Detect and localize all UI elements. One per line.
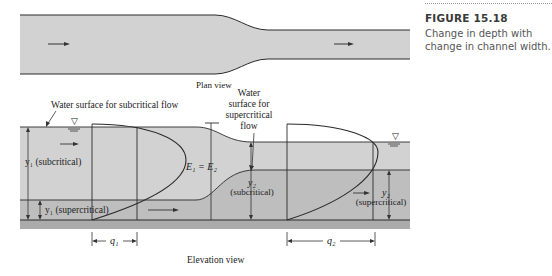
supercritical-surface-label-1: Water bbox=[238, 88, 261, 98]
subcritical-surface-label: Water surface for subcritical flow bbox=[51, 100, 179, 110]
water-surface-icon: ▽ bbox=[68, 116, 80, 131]
y1-supercritical-label: y₁ (supercritical) bbox=[45, 205, 109, 216]
y2-subcritical-label: (subcritical) bbox=[230, 187, 273, 197]
water-surface-icon: ▽ bbox=[388, 131, 400, 146]
energy-label: E₁ = E₂ bbox=[185, 161, 217, 172]
q2-label: q₂ bbox=[327, 235, 336, 246]
figure-number: FIGURE 15.18 bbox=[425, 12, 508, 24]
supercritical-surface-label-3: supercritical bbox=[226, 110, 273, 120]
y2-supercritical-label: (supercritical) bbox=[356, 197, 406, 207]
plan-view: Plan view bbox=[20, 15, 410, 90]
caption-divider bbox=[425, 3, 552, 4]
svg-text:▽: ▽ bbox=[71, 116, 78, 126]
supercritical-surface-label-4: flow bbox=[240, 121, 258, 131]
q1-label: q₁ bbox=[110, 235, 118, 246]
figure-caption: Change in depth with change in channel w… bbox=[425, 27, 552, 53]
elevation-view-label: Elevation view bbox=[187, 255, 244, 265]
elevation-view: E₁ = E₂ ▽ ▽ y₁ (subcritical) bbox=[20, 88, 410, 265]
svg-text:▽: ▽ bbox=[392, 131, 399, 141]
supercritical-surface-label-2: surface for bbox=[229, 99, 271, 109]
channel-diagram: Plan view E₁ = E₂ ▽ ▽ bbox=[0, 0, 420, 276]
plan-view-label: Plan view bbox=[196, 80, 232, 90]
y1-subcritical-label: y₁ (subcritical) bbox=[25, 157, 81, 168]
